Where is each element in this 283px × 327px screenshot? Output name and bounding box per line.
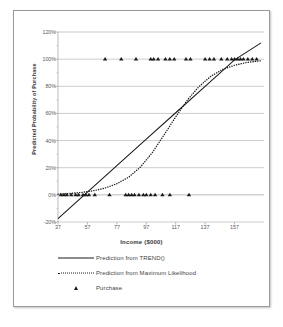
x-tick-label: 37: [45, 224, 71, 230]
legend-label: Purchase: [96, 285, 122, 291]
solid-line-key-glyph: [58, 258, 94, 259]
chart-legend: Prediction from TREND()Prediction from M…: [14, 254, 269, 292]
x-axis-title: Income ($000): [14, 239, 269, 245]
triangle-marker-key: [56, 284, 96, 292]
solid-line-key: [56, 254, 96, 262]
chart-figure: -20%0%20%40%60%80%100%120% 3757779711713…: [13, 10, 270, 307]
x-tick-label: 57: [74, 224, 100, 230]
dotted-line-key-glyph: [58, 273, 94, 274]
y-tick-label: 20%: [22, 165, 56, 171]
x-tick-label: 157: [222, 224, 248, 230]
y-tick-label: 60%: [22, 110, 56, 116]
x-tick-label: 137: [192, 224, 218, 230]
y-axis-title: Predicted Probability of Purchase: [31, 34, 37, 184]
x-tick-label: 97: [133, 224, 159, 230]
x-tick-label: 77: [104, 224, 130, 230]
dotted-line-key: [56, 269, 96, 277]
series-line-trend: [58, 43, 261, 219]
series-markers-purchase: [59, 57, 259, 196]
y-tick-label: 80%: [22, 83, 56, 89]
legend-label: Prediction from Maximum Likelihood: [96, 270, 196, 276]
y-tick-label: 100%: [22, 56, 56, 62]
y-tick-label: 0%: [22, 192, 56, 198]
x-axis-tick-labels: 37577797117137157: [14, 224, 271, 236]
x-tick-label: 117: [163, 224, 189, 230]
legend-item: Purchase: [56, 284, 122, 292]
legend-item: Prediction from TREND(): [56, 254, 165, 262]
legend-label: Prediction from TREND(): [96, 255, 165, 261]
triangle-marker-key-glyph: [74, 286, 78, 290]
y-tick-label: 40%: [22, 138, 56, 144]
y-tick-label: 120%: [22, 29, 56, 35]
legend-item: Prediction from Maximum Likelihood: [56, 269, 196, 277]
